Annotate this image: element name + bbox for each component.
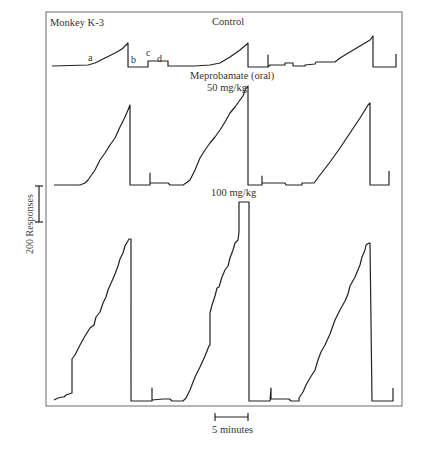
dose-100-label: 100 mg/kg [211,187,256,198]
x-scale-label: 5 minutes [212,424,253,435]
subject-label: Monkey K-3 [50,17,104,28]
marker-c: c [146,47,150,58]
meprobamate-100-trace [54,202,393,401]
marker-d: d [157,53,162,64]
control-trace [52,36,396,67]
dose-50-label: 50 mg/kg [207,82,247,93]
cumulative-record-figure [0,0,423,454]
meprobamate-label: Meprobamate (oral) [190,70,274,81]
y-scale-label: 200 Responses [24,189,38,259]
meprobamate-50-trace [54,86,389,185]
marker-a: a [88,52,92,63]
control-condition-label: Control [212,16,244,27]
marker-b: b [131,54,136,65]
x-scale-bar [215,413,248,421]
